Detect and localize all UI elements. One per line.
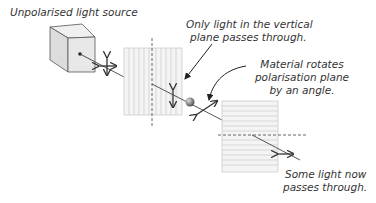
filter1-label-line2: plane passes through. [190, 31, 307, 44]
unpolarised-cross-arrow-icon [98, 57, 116, 75]
output-label-line2: passes through. [283, 181, 367, 194]
source-label: Unpolarised light source [10, 6, 138, 19]
material-label-line2: polarisation plane [248, 71, 356, 84]
output-label-line1: Some light now [285, 168, 366, 181]
filter1-label-line1: Only light in the vertical [186, 18, 313, 31]
material-sphere-icon [186, 98, 195, 107]
light-source-cube [50, 24, 95, 72]
material-label-line3: by an angle. [248, 84, 356, 97]
material-label-line1: Material rotates [248, 58, 356, 71]
filter-pointer-arrow-icon [185, 44, 212, 79]
vertical-polarising-filter [124, 38, 182, 127]
material-pointer-arrow-icon [209, 66, 246, 100]
horizontal-polarising-filter [218, 101, 306, 172]
